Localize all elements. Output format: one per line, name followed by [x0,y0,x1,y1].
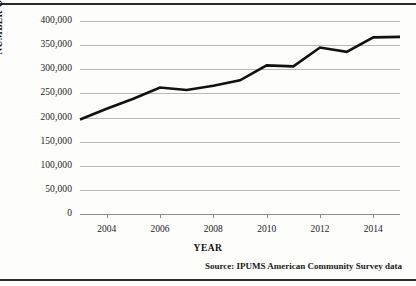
y-tick-label: 250,000 [2,87,72,97]
y-tick-label: 300,000 [2,63,72,73]
y-tick-label: 400,000 [2,15,72,25]
y-tick-label: 200,000 [2,112,72,122]
y-axis-title: NUMBER OF AMERICANS [0,0,4,62]
x-tick-label: 2004 [77,224,137,234]
y-tick-label: 350,000 [2,39,72,49]
y-tick-label: 50,000 [2,184,72,194]
x-tick-label: 2008 [183,224,243,234]
source-note: Source: IPUMS American Community Survey … [205,261,402,271]
x-tick-label: 2010 [237,224,297,234]
y-tick-label: 150,000 [2,136,72,146]
x-tick-label: 2012 [290,224,350,234]
y-tick-label: 0 [2,208,72,218]
x-axis-title: YEAR [0,243,416,253]
figure-bottom-rule [0,279,416,281]
line-series-number-of-americans [80,37,400,120]
figure-top-rule [0,3,416,5]
x-tick-label: 2014 [343,224,403,234]
figure-container: NUMBER OF AMERICANS YEAR 400,000350,0003… [0,0,416,286]
data-series-layer [80,21,400,215]
x-tick-label: 2006 [130,224,190,234]
y-tick-label: 100,000 [2,160,72,170]
plot-area [80,21,400,215]
